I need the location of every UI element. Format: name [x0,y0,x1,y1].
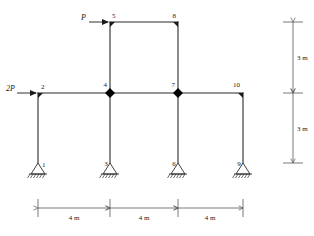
hinge-node-7 [173,88,183,98]
joint-corner-marks [38,22,243,98]
node-label-6: 6 [172,160,176,168]
support-node-9 [233,163,253,178]
dim-label-story-lower: 3 m [297,125,308,133]
support-node-3 [100,163,120,178]
vertical-dimension-group [283,22,303,163]
node-label-5: 5 [112,12,116,20]
corner-mark-node-5 [110,22,115,27]
dim-label-story-upper: 3 m [297,54,308,62]
dim-label-span-2: 4 m [139,214,150,222]
hinge-node-4 [105,88,115,98]
frame-diagram-canvas: 1 2 3 4 5 6 7 8 9 10 P 2P 4 m 4 m 4 m 3 … [0,0,314,236]
corner-mark-node-10 [238,93,243,98]
structural-frame-figure: 1 2 3 4 5 6 7 8 9 10 P 2P 4 m 4 m 4 m 3 … [0,0,314,236]
dim-label-span-3: 4 m [205,214,216,222]
node-label-2: 2 [41,83,45,91]
node-label-1: 1 [42,161,46,169]
node-label-4: 4 [104,81,108,89]
load-label-2P: 2P [6,84,15,93]
node-label-10: 10 [233,81,241,89]
node-label-7: 7 [172,81,176,89]
corner-mark-node-8 [173,22,178,27]
support-node-6 [168,163,188,178]
dim-label-span-1: 4 m [69,214,80,222]
load-label-P: P [80,13,86,22]
node-label-9: 9 [237,160,241,168]
frame-members [38,22,243,163]
corner-mark-node-2 [38,93,43,98]
node-label-8: 8 [173,12,177,20]
node-label-3: 3 [104,160,108,168]
